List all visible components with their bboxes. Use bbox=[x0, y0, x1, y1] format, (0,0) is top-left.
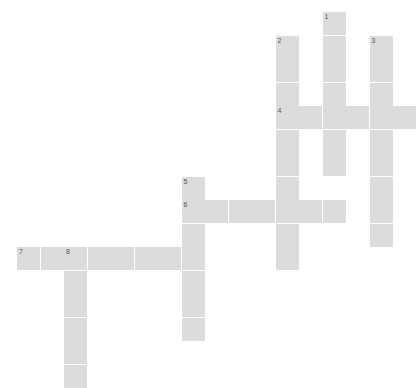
crossword-cell[interactable] bbox=[276, 247, 299, 270]
crossword-cell[interactable] bbox=[252, 200, 275, 223]
crossword-cell[interactable] bbox=[276, 200, 299, 223]
cell-number-7: 7 bbox=[19, 248, 23, 256]
crossword-cell[interactable] bbox=[88, 247, 111, 270]
crossword-cell[interactable] bbox=[64, 365, 87, 388]
crossword-cell[interactable] bbox=[64, 318, 87, 341]
crossword-cell[interactable] bbox=[370, 83, 393, 106]
crossword-cell[interactable] bbox=[370, 224, 393, 247]
crossword-cell[interactable] bbox=[276, 59, 299, 82]
cell-number-3: 3 bbox=[372, 37, 376, 45]
crossword-cell[interactable] bbox=[370, 153, 393, 176]
crossword-cell[interactable] bbox=[323, 106, 346, 129]
crossword-cell[interactable] bbox=[370, 59, 393, 82]
crossword-cell[interactable] bbox=[323, 36, 346, 59]
cell-number-2: 2 bbox=[278, 37, 282, 45]
crossword-cell[interactable] bbox=[158, 247, 181, 270]
crossword-cell[interactable] bbox=[276, 130, 299, 153]
crossword-cell[interactable] bbox=[182, 318, 205, 341]
crossword-cell[interactable] bbox=[182, 271, 205, 294]
crossword-cell[interactable] bbox=[205, 200, 228, 223]
crossword-cell[interactable] bbox=[182, 247, 205, 270]
crossword-cell[interactable] bbox=[370, 106, 393, 129]
crossword-cell[interactable] bbox=[276, 83, 299, 106]
crossword-cell[interactable] bbox=[323, 83, 346, 106]
crossword-cell[interactable]: 4 bbox=[276, 106, 299, 129]
crossword-cell[interactable] bbox=[370, 177, 393, 200]
crossword-cell[interactable]: 8 bbox=[64, 247, 87, 270]
crossword-cell[interactable] bbox=[346, 106, 369, 129]
crossword-cell[interactable] bbox=[323, 153, 346, 176]
crossword-cell[interactable] bbox=[135, 247, 158, 270]
crossword-cell[interactable]: 3 bbox=[370, 36, 393, 59]
crossword-cell[interactable] bbox=[229, 200, 252, 223]
crossword-cell[interactable] bbox=[64, 294, 87, 317]
crossword-cell[interactable] bbox=[182, 294, 205, 317]
cell-number-8: 8 bbox=[66, 248, 70, 256]
crossword-cell[interactable] bbox=[276, 224, 299, 247]
crossword-cell[interactable] bbox=[299, 200, 322, 223]
crossword-cell[interactable] bbox=[393, 106, 416, 129]
crossword-cell[interactable]: 6 bbox=[182, 200, 205, 223]
crossword-cell[interactable] bbox=[323, 200, 346, 223]
crossword-cell[interactable] bbox=[41, 247, 64, 270]
crossword-cell[interactable] bbox=[276, 153, 299, 176]
cell-number-6: 6 bbox=[184, 201, 188, 209]
crossword-cell[interactable] bbox=[64, 271, 87, 294]
cell-number-4: 4 bbox=[278, 107, 282, 115]
crossword-cell[interactable]: 5 bbox=[182, 177, 205, 200]
crossword-cell[interactable] bbox=[299, 106, 322, 129]
cell-number-1: 1 bbox=[325, 13, 329, 21]
crossword-cell[interactable] bbox=[323, 130, 346, 153]
crossword-cell[interactable]: 2 bbox=[276, 36, 299, 59]
crossword-cell[interactable] bbox=[370, 200, 393, 223]
crossword-cell[interactable] bbox=[64, 341, 87, 364]
crossword-cell[interactable] bbox=[276, 177, 299, 200]
crossword-cell[interactable] bbox=[323, 59, 346, 82]
crossword-cell[interactable]: 7 bbox=[17, 247, 40, 270]
crossword-cell[interactable]: 1 bbox=[323, 12, 346, 35]
crossword-cell[interactable] bbox=[370, 130, 393, 153]
crossword-cell[interactable] bbox=[111, 247, 134, 270]
cell-number-5: 5 bbox=[184, 178, 188, 186]
crossword-cell[interactable] bbox=[182, 224, 205, 247]
